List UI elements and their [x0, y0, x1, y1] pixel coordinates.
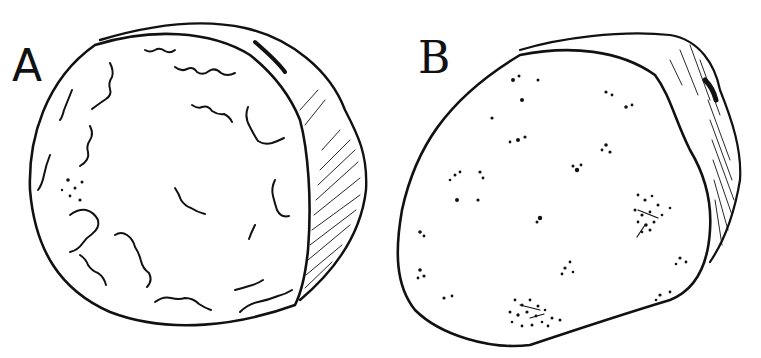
- figure-a: A: [0, 0, 380, 358]
- figure-label-b: B: [418, 36, 450, 80]
- specimen-a-drawing: [0, 0, 380, 358]
- figure-label-a: A: [12, 44, 42, 88]
- figure-b: B: [380, 0, 761, 358]
